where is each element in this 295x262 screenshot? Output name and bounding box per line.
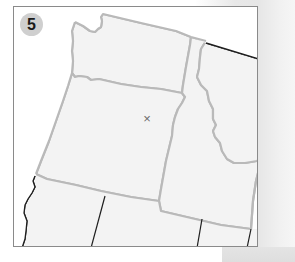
location-marker-x-icon: × [141,113,153,125]
map-frame [13,6,258,247]
panel-number-badge: 5 [20,13,43,36]
map-figure-page: 5 × [0,0,295,262]
background-strip-bottom [222,247,295,262]
map-canvas [13,6,258,247]
background-strip-right [258,0,295,262]
